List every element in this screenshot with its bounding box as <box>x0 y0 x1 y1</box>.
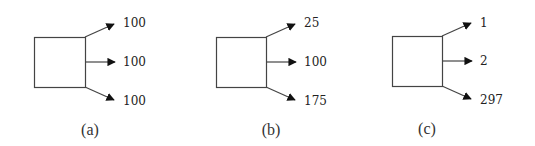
node-box <box>217 38 267 88</box>
panel-c: 1 2 297 (c) <box>359 0 535 146</box>
node-box <box>35 38 86 88</box>
panel-b: 25 100 175 (b) <box>181 0 359 146</box>
output-label-middle: 100 <box>304 56 327 68</box>
output-label-top: 25 <box>304 17 319 29</box>
panel-a: 100 100 100 (a) <box>0 0 178 146</box>
arrow-bottom-icon <box>85 87 114 100</box>
arrow-top-icon <box>442 23 471 36</box>
arrow-bottom-icon <box>442 86 471 99</box>
output-label-bottom: 175 <box>304 95 327 107</box>
output-label-bottom: 297 <box>480 94 503 106</box>
arrow-top-icon <box>85 24 114 37</box>
output-label-bottom: 100 <box>123 95 146 107</box>
output-label-middle: 2 <box>480 55 488 67</box>
output-label-top: 100 <box>123 17 146 29</box>
panel-caption: (b) <box>251 122 291 138</box>
arrow-top-icon <box>266 24 295 37</box>
box-with-arrows-c <box>359 0 535 146</box>
output-label-top: 1 <box>480 17 488 29</box>
arrow-bottom-icon <box>266 87 295 100</box>
panel-caption: (c) <box>407 121 447 137</box>
output-label-middle: 100 <box>123 56 146 68</box>
panel-caption: (a) <box>70 122 110 138</box>
node-box <box>393 37 443 87</box>
